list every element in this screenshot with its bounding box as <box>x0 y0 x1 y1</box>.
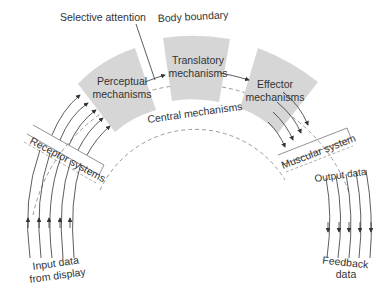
central-mechanisms-arc <box>100 129 285 190</box>
selective-attention-label: Selective attention <box>60 11 146 23</box>
arrow-perceptual-to-translatory <box>145 75 165 82</box>
output-data-lines <box>326 170 371 258</box>
effector-label-1: Effector <box>257 78 293 90</box>
central-mechanisms-label: Central mechanisms <box>147 100 243 125</box>
effector-label-2: mechanisms <box>246 91 305 103</box>
body-boundary-label: Body boundary <box>157 8 229 24</box>
perceptual-label-2: mechanisms <box>93 88 152 100</box>
feedback-data-label-2: data <box>336 268 357 280</box>
translatory-label-1: Translatory <box>172 54 225 66</box>
receptor-systems-label: Receptor systems <box>28 134 108 184</box>
perceptual-label-1: Perceptual <box>97 75 147 87</box>
input-arrows <box>28 218 70 228</box>
output-data-label: Output data <box>314 166 368 184</box>
muscular-system-label: Muscular system <box>279 131 357 171</box>
translatory-label-2: mechanisms <box>169 67 228 79</box>
feedback-arrows <box>328 222 371 232</box>
human-information-processing-diagram: Selective attention Body boundary Percep… <box>0 0 382 293</box>
